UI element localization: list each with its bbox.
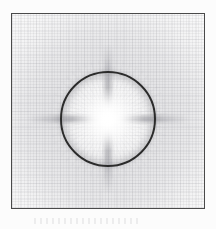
diffraction-spike-vertical: [102, 44, 115, 194]
dark-circle: [60, 71, 156, 167]
graph-paper-weave-texture: [12, 14, 204, 208]
figure-root: [0, 0, 216, 229]
grey-halo: [12, 14, 204, 208]
core-rays: [48, 59, 168, 179]
bright-core: [60, 71, 156, 167]
diffraction-spike-horizontal: [27, 113, 189, 125]
plot-frame: [11, 13, 205, 209]
